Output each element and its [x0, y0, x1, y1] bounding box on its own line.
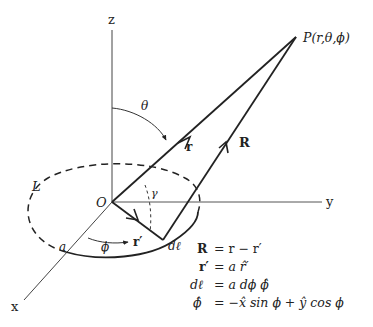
equation-4-rhs: = −x̂ sin ϕ + ŷ cos ϕ: [214, 295, 344, 310]
equation-1-lhs: R: [197, 241, 208, 256]
radius-label: a: [59, 240, 66, 254]
equation-2-lhs: r′: [199, 259, 209, 274]
vector-r-label: r: [186, 140, 193, 154]
equation-2-rhs: = a r̂′: [214, 259, 249, 274]
y-axis-label: y: [325, 194, 334, 209]
phi-label: ϕ: [101, 240, 109, 254]
gamma-label: γ: [151, 187, 158, 200]
point-P-label: P(r,θ,ϕ): [302, 30, 350, 45]
x-axis: [24, 202, 112, 300]
diagram-canvas: z y x O P(r,θ,ϕ) r R r′ dℓ θ ϕ γ L a R =…: [0, 0, 373, 327]
equation-1-rhs: = r − r′: [214, 241, 262, 256]
z-axis-label: z: [108, 12, 115, 27]
equation-4-lhs: ϕ̂: [193, 295, 202, 310]
vector-R-label: R: [239, 135, 250, 150]
gamma-dashed-line: [145, 185, 151, 232]
theta-arc: [112, 108, 166, 140]
origin-label: O: [96, 195, 107, 210]
loop-label: L: [31, 179, 41, 194]
equation-3-rhs: = a dϕ ϕ̂: [214, 277, 269, 292]
x-axis-label: x: [11, 299, 19, 314]
equations-block: R = r − r′ r′ = a r̂′ dℓ = a dϕ ϕ̂ ϕ̂ = …: [190, 241, 344, 310]
theta-label: θ: [141, 99, 149, 113]
dl-label: dℓ: [168, 239, 181, 253]
equation-3-lhs: dℓ: [190, 277, 203, 292]
vector-r-prime-label: r′: [133, 235, 143, 249]
